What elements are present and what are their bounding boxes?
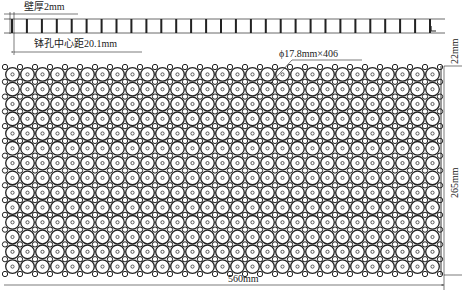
right-dimensions: 22mm 265mm [444,38,462,275]
hole-pitch-label: 钵孔中心距20.1mm [34,37,117,49]
height-label: 265mm [449,167,460,198]
seedling-tray-drawing: 壁厚2mm 钵孔中心距20.1mm ϕ17.8mm×406 22mm 265mm… [0,0,468,297]
cross-section-view: 壁厚2mm 钵孔中心距20.1mm [4,0,445,55]
hole-spec-label: ϕ17.8mm×406 [279,48,338,59]
tray-hole-grid [2,64,442,276]
depth-label: 22mm [449,38,460,64]
wall-thickness-label: 壁厚2mm [24,0,65,12]
width-label: 560mm [228,273,259,284]
tray-plan-view [2,64,444,290]
cross-section-ribs [11,19,436,33]
